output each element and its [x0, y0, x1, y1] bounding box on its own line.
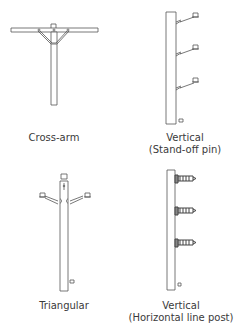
label-cross-arm: Cross-arm — [14, 132, 94, 144]
triangular-figure — [39, 174, 91, 291]
insulator-diagram — [0, 0, 237, 336]
vertical-horizontal-post-figure — [167, 170, 196, 290]
label-vertical-horizontal-post: Vertical (Horizontal line post) — [125, 300, 237, 324]
label-vertical-horizontal-post-line2: (Horizontal line post) — [125, 312, 237, 324]
cross-arm-figure — [11, 24, 98, 105]
label-vertical-standoff-line1: Vertical — [135, 132, 235, 144]
label-vertical-standoff: Vertical (Stand-off pin) — [135, 132, 235, 156]
label-vertical-standoff-line2: (Stand-off pin) — [135, 144, 235, 156]
label-vertical-horizontal-post-line1: Vertical — [125, 300, 237, 312]
vertical-standoff-figure — [166, 12, 199, 124]
label-cross-arm-line1: Cross-arm — [14, 132, 94, 144]
label-triangular: Triangular — [24, 300, 104, 312]
label-triangular-line1: Triangular — [24, 300, 104, 312]
